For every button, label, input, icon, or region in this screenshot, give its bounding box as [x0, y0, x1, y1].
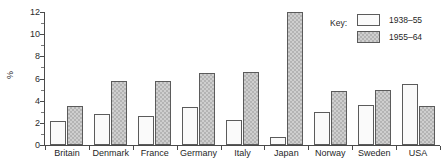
- y-tick-mark-minor: [41, 90, 44, 91]
- y-axis-tick-labels: 024681012: [22, 0, 40, 159]
- legend-swatch: [357, 31, 380, 43]
- y-tick-mark: [40, 34, 44, 35]
- y-tick-mark-minor: [41, 134, 44, 135]
- y-tick-label: 12: [30, 8, 40, 17]
- x-tick-label: Denmark: [89, 148, 133, 158]
- bar: [331, 91, 347, 145]
- bar: [375, 90, 391, 145]
- bar-chart: % 024681012 BritainDenmarkFranceGermanyI…: [0, 0, 445, 159]
- bar: [67, 106, 83, 145]
- bar: [358, 105, 374, 145]
- y-tick-mark: [40, 12, 44, 13]
- bar: [226, 120, 242, 145]
- bar-group: [264, 12, 308, 145]
- bar: [138, 116, 154, 145]
- x-tick-label: Italy: [221, 148, 265, 158]
- legend-label: 1938–55: [389, 15, 422, 25]
- x-tick-mark: [440, 146, 441, 150]
- x-tick-label: Germany: [177, 148, 221, 158]
- y-tick-mark: [40, 56, 44, 57]
- x-tick-label: Britain: [45, 148, 89, 158]
- y-tick-mark-minor: [41, 67, 44, 68]
- bar: [287, 12, 303, 145]
- bar: [402, 84, 418, 146]
- x-tick-label: USA: [396, 148, 440, 158]
- bar-group: [308, 12, 352, 145]
- bar: [270, 137, 286, 145]
- x-tick-label: Sweden: [352, 148, 396, 158]
- y-axis-label: %: [5, 71, 15, 79]
- x-tick-label: Norway: [308, 148, 352, 158]
- x-tick-label: France: [133, 148, 177, 158]
- bar: [94, 114, 110, 145]
- bar-group: [221, 12, 265, 145]
- bar: [243, 72, 259, 145]
- legend-swatch: [357, 14, 380, 26]
- bar-group: [45, 12, 89, 145]
- y-tick-mark: [40, 101, 44, 102]
- y-tick-mark: [40, 79, 44, 80]
- bar: [199, 73, 215, 145]
- y-tick-mark-minor: [41, 45, 44, 46]
- bar: [50, 121, 66, 145]
- legend-title: Key:: [330, 18, 347, 28]
- x-tick-label: Japan: [264, 148, 308, 158]
- plot-area: [45, 12, 440, 145]
- bar: [314, 112, 330, 145]
- legend-label: 1955–64: [389, 32, 422, 42]
- y-tick-mark-minor: [41, 112, 44, 113]
- x-axis-line: [44, 145, 440, 146]
- bar: [111, 81, 127, 145]
- bar: [182, 107, 198, 145]
- bar-group: [133, 12, 177, 145]
- bar-group: [177, 12, 221, 145]
- bar: [155, 81, 171, 145]
- bar: [419, 106, 435, 145]
- y-tick-label: 10: [30, 30, 40, 39]
- bar-group: [89, 12, 133, 145]
- y-tick-mark-minor: [41, 23, 44, 24]
- y-tick-mark: [40, 123, 44, 124]
